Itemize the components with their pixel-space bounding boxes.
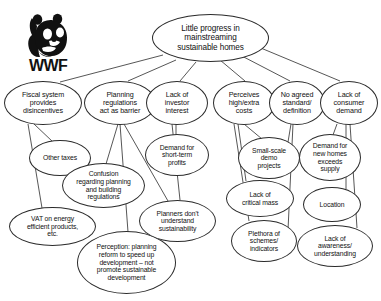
edge-standard-to-demo [288, 124, 291, 142]
edge-costs-to-demo [244, 124, 262, 139]
node-label-fiscal: Fiscal system provides disincentives [19, 91, 67, 115]
node-vat[interactable]: VAT on energy efficient products, etc. [9, 207, 96, 246]
node-costs[interactable]: Perceives high/extra costs [213, 81, 275, 125]
edge-root-to-investor [180, 62, 196, 81]
node-label-perception: Perception: planning reform to speed up … [94, 243, 160, 281]
node-label-confusion: Confusion regarding planning and buildin… [73, 170, 134, 200]
node-consumer[interactable]: Lack of consumer demand [320, 81, 378, 125]
edge-planning-to-confusion [106, 124, 118, 164]
node-confusion[interactable]: Confusion regarding planning and buildin… [62, 163, 145, 208]
wwf-wordmark: WWF [14, 57, 82, 75]
node-root[interactable]: Little progress in mainstreaming sustain… [152, 14, 269, 62]
node-label-shortterm: Demand for short-term profits [157, 144, 198, 167]
node-label-criticalmass: Lack of critical mass [239, 191, 281, 206]
node-demo[interactable]: Small-scale demo projects [238, 137, 300, 179]
edge-root-to-standard [238, 54, 290, 81]
node-awareness[interactable]: Lack of awareness/ understanding [297, 225, 373, 267]
node-label-plethora: Plethora of schemes/ indicators [245, 230, 283, 253]
node-label-consumer: Lack of consumer demand [331, 91, 368, 115]
edge-root-to-consumer [256, 46, 340, 81]
node-label-investor: Lack of investor interest [162, 91, 192, 115]
node-perception[interactable]: Perception: planning reform to speed up … [77, 231, 176, 294]
node-label-costs: Perceives high/extra costs [226, 91, 263, 115]
edge-root-to-planning [128, 60, 176, 81]
wwf-logo: WWF [14, 9, 82, 75]
node-newhomes[interactable]: Demand for new homes exceeds supply [299, 134, 361, 181]
panda-icon [23, 9, 73, 59]
node-label-awareness: Lack of awareness/ understanding [311, 235, 359, 258]
node-fiscal[interactable]: Fiscal system provides disincentives [4, 81, 82, 125]
node-standard[interactable]: No agreed standard/ definition [269, 81, 325, 125]
node-label-planning: Planning regulations act as barrier [97, 91, 144, 115]
node-plethora[interactable]: Plethora of schemes/ indicators [231, 220, 297, 262]
node-label-vat: VAT on energy efficient products, etc. [24, 215, 81, 238]
edge-fiscal-to-othertaxes [34, 124, 53, 142]
node-label-standard: No agreed standard/ definition [278, 91, 317, 115]
node-criticalmass[interactable]: Lack of critical mass [226, 180, 294, 217]
node-label-location: Location [317, 201, 348, 209]
node-label-root: Little progress in mainstreaming sustain… [174, 24, 247, 52]
node-label-othertaxes: Other taxes [40, 154, 80, 162]
edge-root-to-costs [220, 60, 245, 81]
node-investor[interactable]: Lack of investor interest [146, 81, 208, 125]
edge-standard-to-plethora [288, 124, 293, 230]
node-shortterm[interactable]: Demand for short-term profits [145, 134, 209, 176]
diagram-canvas: WWF Little progress in mainstreaming sus… [0, 0, 381, 301]
node-location[interactable]: Location [303, 187, 361, 222]
node-label-newhomes: Demand for new homes exceeds supply [310, 142, 351, 172]
node-label-demo: Small-scale demo projects [249, 147, 289, 170]
node-label-planners: Planners don't understand sustainability [154, 210, 202, 233]
node-planners[interactable]: Planners don't understand sustainability [139, 200, 216, 242]
